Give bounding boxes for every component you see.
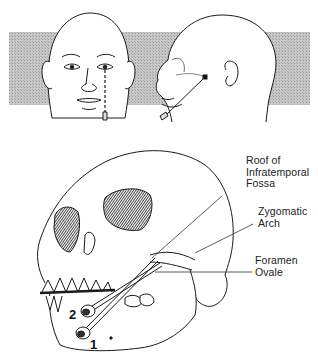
frontal-head — [42, 13, 135, 120]
label-foramen-line2: Ovale — [255, 267, 298, 279]
lateral-head — [156, 15, 276, 122]
label-foramen-ovale: Foramen Ovale — [255, 255, 298, 278]
needle-number-1: 1 — [90, 337, 97, 352]
label-zygomatic-arch: Zygomatic Arch — [258, 206, 307, 229]
needle-hub-2 — [81, 305, 95, 317]
label-roof-of-infratemporal-fossa: Roof of Infratemporal Fossa — [246, 155, 309, 190]
needle-number-2: 2 — [69, 307, 76, 322]
label-roof-line1: Roof of — [246, 155, 309, 167]
label-zygomatic-line2: Arch — [258, 218, 307, 230]
label-zygomatic-line1: Zygomatic — [258, 206, 307, 218]
needle-hub-1 — [76, 327, 90, 339]
label-roof-line3: Fossa — [246, 178, 309, 190]
label-foramen-line1: Foramen — [255, 255, 298, 267]
skull — [38, 151, 234, 351]
figure-canvas: Roof of Infratemporal Fossa Zygomatic Ar… — [0, 0, 318, 362]
